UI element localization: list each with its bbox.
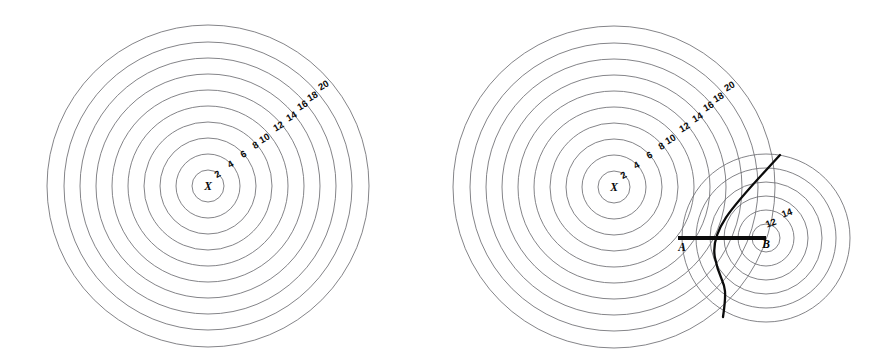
concentric-circles-figure: 2468101214161820 X 2468101214161820 1214… xyxy=(0,0,881,363)
point-label-a: A xyxy=(677,241,686,253)
point-label-b: B xyxy=(761,238,770,250)
right-center-label-x: X xyxy=(609,181,618,193)
left-center-label-x: X xyxy=(203,180,212,192)
figure-root: 2468101214161820 X 2468101214161820 1214… xyxy=(0,0,881,363)
